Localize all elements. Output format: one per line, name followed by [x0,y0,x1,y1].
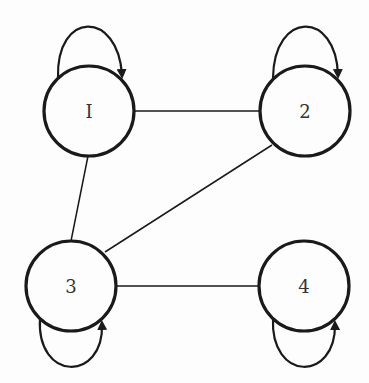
edge-1-3 [71,156,88,241]
edge-2-3 [105,145,272,252]
node-2-label: 2 [299,101,310,122]
node-2: 2 [260,66,350,156]
node-4: 4 [259,241,349,331]
node-4-label: 4 [298,276,309,297]
node-1-label: I [85,101,92,122]
graph-diagram: I 2 3 4 [0,0,369,383]
node-1: I [44,66,134,156]
node-3-label: 3 [65,276,76,297]
node-3: 3 [26,241,116,331]
